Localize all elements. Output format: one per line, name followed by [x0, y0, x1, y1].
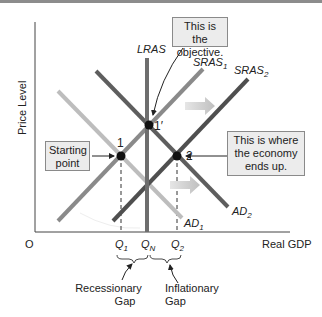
point-1-label: 1	[117, 136, 124, 150]
y-axis-label: Price Level	[16, 81, 28, 135]
recessionary-gap-label: Recessionary Gap	[75, 282, 145, 307]
point-1-prime-label: 1′	[154, 119, 164, 133]
point-2-label: 2	[186, 149, 193, 163]
point-1-prime	[145, 121, 154, 130]
point-2	[173, 152, 182, 161]
sras2-label: SRAS2	[234, 64, 269, 79]
point-1	[117, 152, 126, 161]
q1-label: Q1	[115, 238, 128, 253]
sras-shift-arrow	[185, 97, 215, 115]
x-axis-label: Real GDP	[262, 238, 312, 250]
inflationary-brace	[150, 255, 181, 263]
ad1-label: AD1	[183, 217, 204, 232]
ad2-label: AD2	[231, 205, 252, 220]
objective-callout: This is the objective.	[172, 17, 228, 47]
ends-up-callout: This is where the economy ends up.	[227, 131, 305, 176]
origin-label: O	[25, 238, 34, 250]
starting-point-callout: Starting point	[45, 141, 90, 171]
ad2-curve	[96, 71, 228, 207]
inflationary-gap-label: Inflationary Gap	[165, 282, 222, 307]
recessionary-brace	[117, 255, 148, 263]
qn-label: QN	[141, 238, 156, 253]
q2-label: Q2	[171, 238, 185, 253]
ad-shift-arrow	[170, 176, 200, 194]
lras-label: LRAS	[137, 43, 166, 55]
